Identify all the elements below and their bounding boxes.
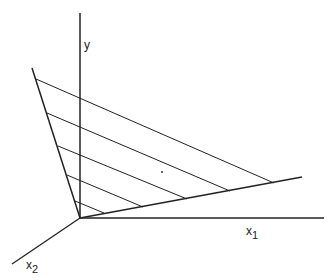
x2-axis	[12, 218, 80, 264]
cone-diagram	[0, 0, 332, 280]
left-ray	[32, 68, 80, 218]
y-axis-label: y	[84, 38, 90, 52]
x2-axis-label: x2	[26, 258, 38, 275]
dot-mark	[161, 171, 163, 173]
hatch-line	[36, 79, 274, 183]
hatch-line	[58, 146, 187, 199]
right-ray	[80, 177, 302, 218]
diagram-canvas: y x1 x2	[0, 0, 332, 280]
x1-axis-label: x1	[246, 224, 258, 241]
